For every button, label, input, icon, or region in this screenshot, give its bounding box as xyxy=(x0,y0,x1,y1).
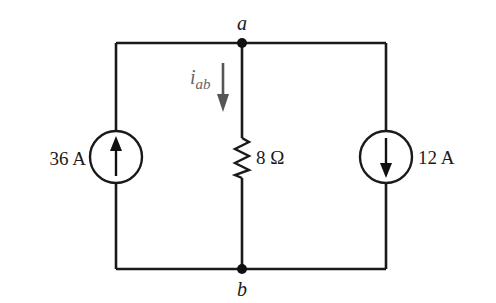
node-b-dot xyxy=(237,264,247,274)
right-current-source xyxy=(360,131,412,183)
left-source-value: 36 A xyxy=(50,148,87,169)
right-source-value: 12 A xyxy=(418,147,455,168)
current-iab-arrow xyxy=(217,63,229,112)
current-label-subscript: ab xyxy=(196,76,212,92)
node-a-label: a xyxy=(237,12,247,34)
current-arrow-head-icon xyxy=(217,94,229,112)
circuit-diagram: a b 36 A 12 A 8 Ω iab xyxy=(0,0,496,303)
resistor-value: 8 Ω xyxy=(256,147,284,168)
current-label: iab xyxy=(190,66,211,92)
resistor-symbol xyxy=(235,138,249,178)
left-current-source xyxy=(90,131,142,183)
node-b-label: b xyxy=(237,278,247,300)
node-a-dot xyxy=(237,38,247,48)
